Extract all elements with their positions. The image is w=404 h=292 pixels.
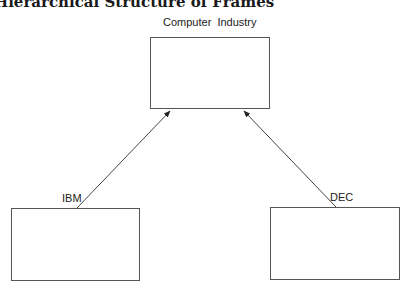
node-ibm: [11, 208, 140, 281]
node-label-ibm: IBM: [62, 192, 82, 204]
edge-ibm-to-industry: [77, 111, 170, 208]
node-dec: [270, 207, 400, 280]
node-label-dec: DEC: [330, 191, 353, 203]
edge-dec-to-industry: [244, 111, 336, 207]
node-label-computer-industry: Computer Industry: [163, 16, 257, 28]
node-computer-industry: [150, 37, 270, 109]
